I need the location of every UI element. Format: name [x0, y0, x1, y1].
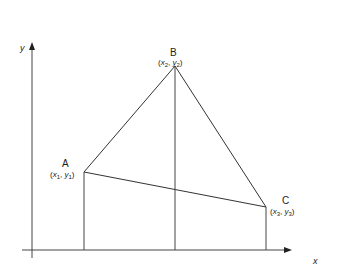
point-label-a: A	[62, 158, 69, 169]
triangle-diagram: y x A (x1, y1) B (x2, y2) C (x3, y3)	[0, 0, 337, 280]
point-coords-a: (x1, y1)	[50, 170, 75, 180]
x-axis-arrow-icon	[284, 247, 292, 253]
point-label-c: C	[282, 195, 289, 206]
point-coords-c: (x3, y3)	[270, 207, 295, 217]
edge-ab	[84, 66, 175, 172]
y-axis-label: y	[19, 43, 25, 53]
y-axis-arrow-icon	[29, 42, 35, 50]
edge-bc	[175, 66, 266, 207]
point-label-b: B	[170, 47, 177, 58]
point-coords-b: (x2, y2)	[158, 58, 183, 68]
x-axis-label: x	[312, 256, 318, 266]
